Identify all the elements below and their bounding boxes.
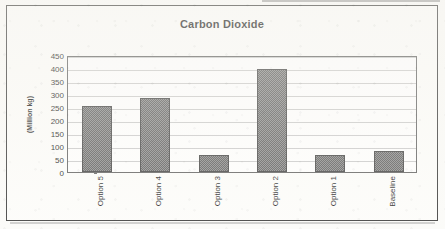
scan-artifact-bottom [10,222,435,224]
bar-slot [301,57,359,172]
x-axis-category-label: Option 5 [96,176,105,206]
bar[interactable] [82,106,112,172]
x-axis-category-labels: Option 5Option 4Option 3Option 2Option 1… [67,176,417,228]
y-axis-tick-label: 450 [51,52,64,61]
plot-area [67,56,417,173]
x-axis-category-label: Baseline [388,176,397,207]
scan-artifact-top [262,0,440,2]
y-axis-tick-label: 100 [51,143,64,152]
y-axis-title-text: (Million kg) [26,96,33,133]
y-axis-tick-label: 400 [51,65,64,74]
x-axis-category-label: Option 1 [329,176,338,206]
bar-slot [360,57,418,172]
bar-slot [68,57,126,172]
y-axis-title: (Million kg) [23,56,35,173]
y-axis-tick-label: 200 [51,117,64,126]
bar[interactable] [374,151,404,172]
chart-screenshot: Carbon Dioxide (Million kg) 050100150200… [0,0,445,229]
x-axis-category-label: Option 4 [154,176,163,206]
category-slot: Option 4 [125,176,183,228]
category-slot: Option 3 [184,176,242,228]
bar[interactable] [140,98,170,172]
y-axis-tick-label: 350 [51,78,64,87]
bar[interactable] [199,155,229,172]
category-slot: Option 2 [242,176,300,228]
y-axis-tick-label: 250 [51,104,64,113]
y-axis-tick-label: 0 [60,169,64,178]
x-axis-category-label: Option 2 [271,176,280,206]
bar[interactable] [257,69,287,172]
bar-slot [243,57,301,172]
y-axis-tick-label: 300 [51,91,64,100]
y-axis-tick-label: 150 [51,130,64,139]
x-axis-category-label: Option 3 [213,176,222,206]
plot-wrap [67,56,417,173]
category-slot: Option 5 [67,176,125,228]
category-slot: Option 1 [300,176,358,228]
y-axis-tick-labels: 050100150200250300350400450 [37,56,64,173]
category-slot: Baseline [359,176,417,228]
chart-title: Carbon Dioxide [7,18,437,30]
bar[interactable] [315,155,345,172]
bar-slot [126,57,184,172]
y-axis-tick-label: 50 [55,156,64,165]
chart-frame: Carbon Dioxide (Million kg) 050100150200… [6,5,438,221]
bar-slot [185,57,243,172]
